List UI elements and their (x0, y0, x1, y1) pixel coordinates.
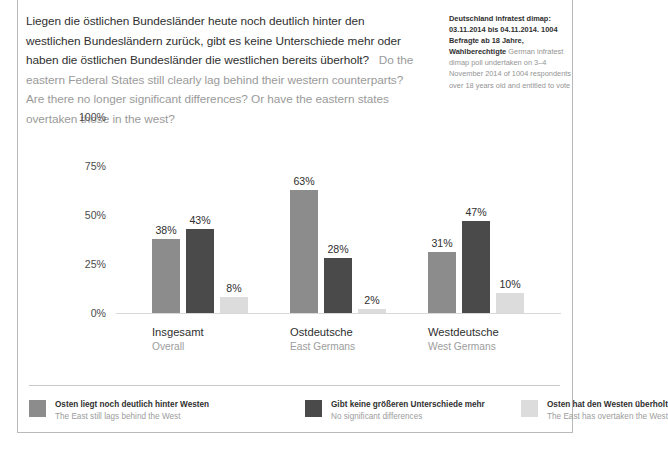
legend-item[interactable]: Osten hat den Westen überholtThe East ha… (521, 399, 668, 424)
legend-item[interactable]: Gibt keine größeren Unterschiede mehrNo … (305, 399, 485, 424)
category-label-german: Insgesamt (152, 325, 204, 340)
bar-value-label: 63% (293, 175, 314, 187)
category-label-german: Ostdeutsche (290, 325, 355, 340)
category-label-english: East Germans (290, 340, 355, 354)
legend-label-german: Osten liegt noch deutlich hinter Westen (55, 399, 209, 411)
legend-swatch (29, 400, 46, 417)
bar-value-label: 8% (226, 282, 241, 294)
bar-value-label: 31% (431, 237, 452, 249)
category-label-german: Westdeutsche (428, 325, 499, 340)
legend-label-english: The East still lags behind the West (55, 411, 209, 424)
bar[interactable] (324, 258, 352, 313)
legend-text: Gibt keine größeren Unterschiede mehrNo … (331, 399, 485, 424)
legend-label-german: Osten hat den Westen überholt (547, 399, 668, 411)
bar-value-label: 10% (499, 278, 520, 290)
legend-label-german: Gibt keine größeren Unterschiede mehr (331, 399, 485, 411)
bar[interactable] (462, 221, 490, 313)
bar[interactable] (358, 309, 386, 313)
legend-label-english: No significant differences (331, 411, 485, 424)
bar-value-label: 47% (465, 206, 486, 218)
category-label: OstdeutscheEast Germans (290, 325, 355, 354)
legend-text: Osten liegt noch deutlich hinter WestenT… (55, 399, 209, 424)
legend-label-english: The East has overtaken the West (547, 411, 668, 424)
bar-value-label: 43% (189, 214, 210, 226)
bar[interactable] (290, 190, 318, 313)
bar-value-label: 2% (364, 294, 379, 306)
bars-layer (0, 0, 585, 313)
bar-value-label: 28% (327, 243, 348, 255)
category-label: InsgesamtOverall (152, 325, 204, 354)
legend: Osten liegt noch deutlich hinter WestenT… (29, 399, 563, 429)
x-axis-baseline (116, 313, 561, 314)
category-label: WestdeutscheWest Germans (428, 325, 499, 354)
category-label-english: West Germans (428, 340, 499, 354)
bar[interactable] (428, 252, 456, 313)
legend-item[interactable]: Osten liegt noch deutlich hinter WestenT… (29, 399, 209, 424)
category-label-english: Overall (152, 340, 204, 354)
bar-value-label: 38% (155, 224, 176, 236)
bar[interactable] (186, 229, 214, 313)
legend-swatch (521, 400, 538, 417)
bar[interactable] (496, 293, 524, 313)
bar[interactable] (220, 297, 248, 313)
bar[interactable] (152, 239, 180, 313)
legend-separator (29, 385, 560, 386)
legend-swatch (305, 400, 322, 417)
legend-text: Osten hat den Westen überholtThe East ha… (547, 399, 668, 424)
